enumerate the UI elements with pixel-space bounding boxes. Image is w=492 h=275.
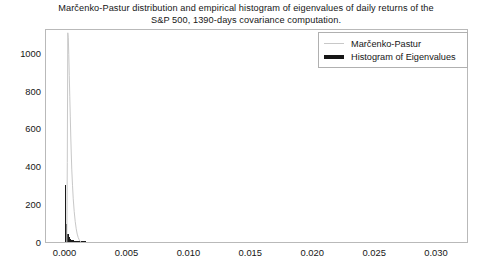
y-axis-tick-label: 1000 — [1, 47, 41, 58]
legend-swatch-histogram — [323, 55, 345, 59]
chart-title: Marčenko-Pastur distribution and empiric… — [0, 2, 492, 26]
x-axis-tick-label: 0.015 — [239, 247, 262, 258]
y-axis-tick-label: 200 — [1, 199, 41, 210]
legend-swatch-marcenko-pastur — [323, 43, 345, 44]
chart-title-line-1: Marčenko-Pastur distribution and empiric… — [0, 2, 492, 14]
y-axis-tick-label: 0 — [1, 237, 41, 248]
y-axis-tick-label: 600 — [1, 123, 41, 134]
legend-item-marcenko-pastur: Marčenko-Pastur — [323, 37, 462, 50]
y-axis-tick-label: 400 — [1, 161, 41, 172]
x-axis-tick-label: 0.005 — [115, 247, 138, 258]
x-axis-tick-label: 0.020 — [300, 247, 323, 258]
chart-figure: Marčenko-Pastur distribution and empiric… — [0, 0, 492, 275]
x-axis-tick-label: 0.000 — [53, 247, 76, 258]
x-axis-tick-label: 0.025 — [362, 247, 385, 258]
legend-label-marcenko-pastur: Marčenko-Pastur — [351, 39, 421, 49]
x-axis-tick-label: 0.010 — [177, 247, 200, 258]
legend-label-histogram: Histogram of Eigenvalues — [351, 52, 456, 62]
y-axis-tick-label: 800 — [1, 85, 41, 96]
y-axis-tick-labels: 02004006008001000 — [0, 0, 41, 275]
legend-item-histogram: Histogram of Eigenvalues — [323, 50, 462, 63]
chart-legend: Marčenko-Pastur Histogram of Eigenvalues — [318, 32, 468, 68]
line-swatch-icon — [324, 43, 344, 44]
chart-title-line-2: S&P 500, 1390-days covariance computatio… — [0, 14, 492, 26]
x-axis-tick-label: 0.030 — [424, 247, 447, 258]
bar-swatch-icon — [324, 55, 344, 59]
